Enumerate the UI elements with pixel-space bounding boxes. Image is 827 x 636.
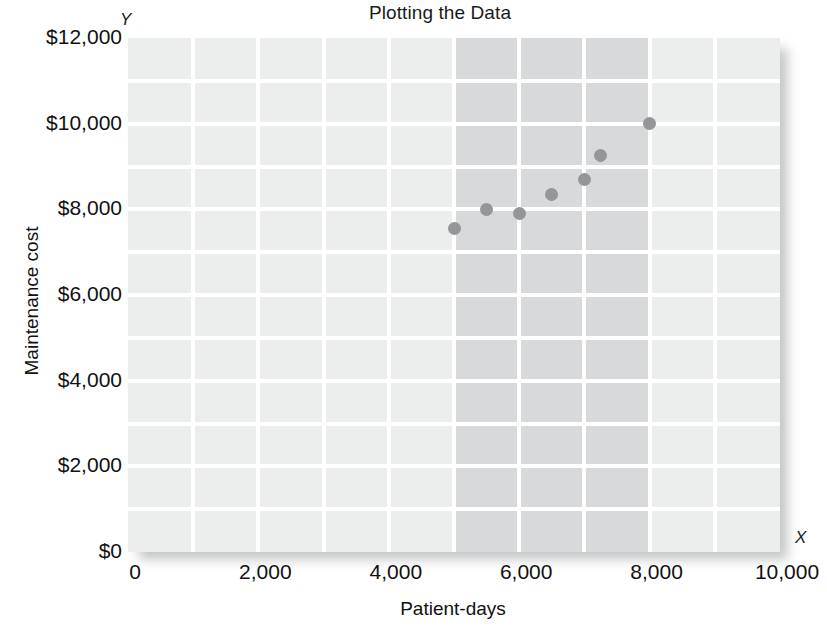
gridline-horizontal [128, 207, 780, 211]
gridline-horizontal [128, 250, 780, 254]
scatter-chart-figure: Plotting the Data Y X $0$2,000$4,000$6,0… [0, 0, 827, 636]
x-tick-label: 6,000 [456, 560, 596, 584]
chart-title: Plotting the Data [290, 2, 590, 24]
y-tick-label: $10,000 [2, 111, 122, 135]
data-point [448, 222, 461, 235]
gridline-horizontal [128, 507, 780, 511]
y-tick-label: $12,000 [2, 25, 122, 49]
gridline-horizontal [128, 79, 780, 83]
x-axis-title: Patient-days [328, 598, 578, 620]
y-tick-label: $4,000 [2, 368, 122, 392]
data-point [578, 173, 591, 186]
x-axis-letter: X [795, 528, 806, 548]
y-tick-label: $8,000 [2, 196, 122, 220]
data-point [513, 207, 526, 220]
y-axis-tick-labels: $0$2,000$4,000$6,000$8,000$10,000$12,000 [0, 0, 122, 636]
x-tick-label: 8,000 [587, 560, 727, 584]
y-tick-label: $2,000 [2, 453, 122, 477]
gridline-horizontal [128, 122, 780, 126]
plot-area [128, 38, 780, 552]
y-axis-title: Maintenance cost [21, 181, 43, 421]
gridline-horizontal [128, 165, 780, 169]
gridline-horizontal [128, 464, 780, 468]
data-point [643, 117, 656, 130]
x-tick-label: 2,000 [195, 560, 335, 584]
x-tick-label: 10,000 [717, 560, 827, 584]
gridline-horizontal [128, 379, 780, 383]
data-point [480, 203, 493, 216]
y-tick-label: $6,000 [2, 282, 122, 306]
x-tick-label: 4,000 [326, 560, 466, 584]
gridline-horizontal [128, 422, 780, 426]
x-tick-label: 0 [65, 560, 205, 584]
gridline-horizontal [128, 336, 780, 340]
gridline-horizontal [128, 293, 780, 297]
